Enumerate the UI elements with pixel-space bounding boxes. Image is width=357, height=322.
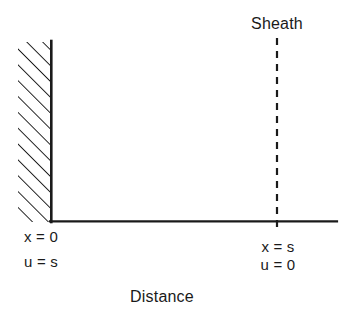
electrode-wall	[18, 41, 52, 222]
x-axis-label: Distance	[130, 289, 194, 305]
figure-background	[0, 0, 357, 322]
left-potential-label: u = s	[24, 254, 58, 270]
right-position-label: x = s	[261, 239, 294, 255]
left-position-label: x = 0	[24, 229, 58, 245]
wall-hatching	[18, 42, 52, 222]
sheath-diagram	[0, 0, 357, 322]
right-potential-label: u = 0	[261, 257, 296, 273]
sheath-title-label: Sheath	[251, 16, 303, 32]
